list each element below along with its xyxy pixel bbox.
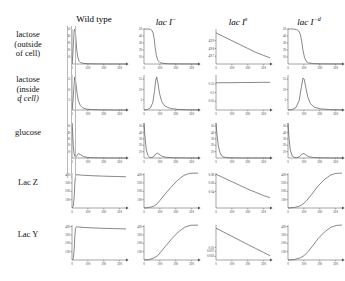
svg-text:100: 100 [137, 250, 142, 254]
svg-text:200: 200 [173, 66, 178, 70]
svg-text:20: 20 [211, 143, 215, 147]
svg-text:0: 0 [143, 66, 145, 70]
svg-text:50: 50 [211, 124, 215, 128]
svg-text:200: 200 [65, 189, 70, 193]
svg-text:200: 200 [101, 66, 106, 70]
svg-text:100: 100 [86, 160, 91, 164]
svg-text:300: 300 [261, 160, 266, 164]
svg-text:400: 400 [65, 225, 70, 229]
alignment-guide-line [67, 26, 68, 178]
svg-text:100: 100 [281, 198, 286, 202]
svg-text:400: 400 [137, 225, 142, 229]
svg-text:100: 100 [65, 198, 70, 202]
svg-text:49.7: 49.7 [209, 54, 215, 58]
svg-text:30: 30 [139, 41, 143, 45]
svg-text:300: 300 [189, 112, 194, 116]
svg-text:50: 50 [139, 27, 143, 31]
svg-text:200: 200 [317, 112, 322, 116]
svg-text:200: 200 [65, 241, 70, 245]
svg-text:0: 0 [143, 262, 145, 266]
svg-text:100: 100 [86, 66, 91, 70]
svg-text:0.08: 0.08 [209, 173, 215, 177]
svg-text:0: 0 [287, 66, 289, 70]
svg-text:0.04: 0.04 [209, 190, 215, 194]
svg-text:15: 15 [139, 77, 143, 81]
plot-lactose-inside-of-cell-lac-i: 510151002003000 [130, 72, 202, 118]
plot-lactose-inside-of-cell-lac-i-d: 510151002003000 [274, 72, 345, 118]
svg-text:400: 400 [281, 173, 286, 177]
svg-text:300: 300 [281, 233, 286, 237]
row-label-lactose-outside: lactose (outside of cell) [0, 30, 56, 59]
svg-text:30: 30 [283, 137, 287, 141]
svg-text:49.9: 49.9 [209, 39, 215, 43]
svg-text:50: 50 [283, 27, 287, 31]
svg-text:200: 200 [317, 160, 322, 164]
svg-text:30: 30 [139, 137, 143, 141]
svg-text:100: 100 [158, 160, 163, 164]
svg-text:300: 300 [333, 160, 338, 164]
svg-text:100: 100 [137, 198, 142, 202]
row-label-line: glucose [0, 128, 56, 138]
svg-text:0: 0 [71, 160, 73, 164]
svg-text:100: 100 [230, 262, 235, 266]
plot-lac-y-lac-i: 1002003004001002003000 [130, 222, 202, 268]
plot-glucose-lac-i-d: 10203040501002003000 [274, 120, 345, 166]
svg-text:200: 200 [173, 210, 178, 214]
svg-text:300: 300 [333, 112, 338, 116]
svg-text:20: 20 [139, 48, 143, 52]
svg-text:0: 0 [143, 160, 145, 164]
column-header-superscript: −d [314, 16, 321, 22]
svg-text:200: 200 [173, 262, 178, 266]
svg-text:300: 300 [137, 233, 142, 237]
svg-text:0.05: 0.05 [209, 99, 215, 103]
row-label-lac-y: Lac Y [0, 230, 56, 240]
svg-text:200: 200 [281, 241, 286, 245]
svg-text:5: 5 [284, 98, 286, 102]
svg-text:100: 100 [230, 210, 235, 214]
lac-operon-figure: Wild type lac I− lac Is lac I−d lactose … [0, 0, 345, 281]
plot-lac-y-lac-i-d: 1002003004001002003000 [274, 222, 345, 268]
svg-text:100: 100 [158, 112, 163, 116]
svg-text:40: 40 [139, 131, 143, 135]
plot-lac-z-lac-i-s: 0.040.060.081002003000 [202, 170, 274, 216]
plot-lactose-inside-of-cell-wild-type: 510151002003000 [58, 72, 130, 118]
plot-lac-z-lac-i-d: 1002003004001002003000 [274, 170, 345, 216]
svg-text:300: 300 [65, 233, 70, 237]
svg-text:300: 300 [65, 181, 70, 185]
svg-text:0: 0 [215, 160, 217, 164]
svg-text:300: 300 [333, 66, 338, 70]
svg-text:200: 200 [101, 262, 106, 266]
svg-text:49.8: 49.8 [209, 47, 215, 51]
svg-text:0.15: 0.15 [209, 82, 215, 86]
svg-text:300: 300 [261, 210, 266, 214]
svg-text:300: 300 [281, 181, 286, 185]
svg-text:40: 40 [283, 34, 287, 38]
svg-text:300: 300 [117, 66, 122, 70]
svg-text:100: 100 [302, 112, 307, 116]
svg-text:200: 200 [245, 66, 250, 70]
svg-text:300: 300 [261, 66, 266, 70]
svg-text:200: 200 [245, 210, 250, 214]
svg-text:100: 100 [302, 66, 307, 70]
plot-lactose-outside-of-cell-lac-i-s: 49.749.849.91002003000 [202, 26, 274, 72]
column-header-label: Wild type [76, 14, 111, 24]
svg-text:300: 300 [117, 210, 122, 214]
svg-text:200: 200 [245, 160, 250, 164]
svg-text:300: 300 [189, 160, 194, 164]
svg-text:0.1: 0.1 [210, 91, 214, 95]
column-header-superscript: − [172, 16, 176, 22]
svg-text:200: 200 [101, 210, 106, 214]
svg-text:100: 100 [230, 160, 235, 164]
row-label-line: Lac Z [0, 178, 56, 188]
svg-text:300: 300 [117, 160, 122, 164]
svg-text:20: 20 [283, 143, 287, 147]
svg-text:0: 0 [143, 112, 145, 116]
svg-text:100: 100 [86, 112, 91, 116]
plot-glucose-lac-i: 10203040501002003000 [130, 120, 202, 166]
svg-text:0: 0 [71, 210, 73, 214]
svg-text:10: 10 [139, 88, 143, 92]
plot-lactose-outside-of-cell-lac-i: 10203040501002003000 [130, 26, 202, 72]
svg-text:0: 0 [143, 210, 145, 214]
row-label-line: ɖ cell) [0, 94, 56, 104]
svg-text:300: 300 [189, 210, 194, 214]
